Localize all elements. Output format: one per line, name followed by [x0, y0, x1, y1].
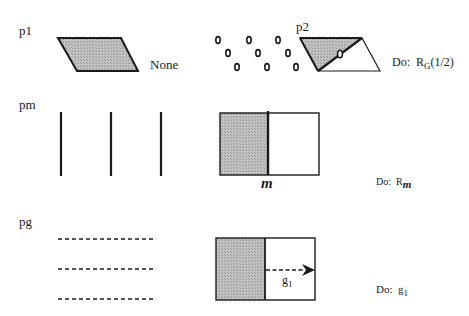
- action-pg: Do: g1: [376, 284, 408, 298]
- p2-rotation-center-icon: [338, 50, 343, 58]
- p2-parallelogram: [300, 38, 380, 71]
- pm-mirror-lines: [61, 112, 161, 176]
- mirror-label-m: m: [261, 176, 273, 191]
- arrowhead-icon: [302, 264, 315, 276]
- pg-glide-lines: [58, 239, 155, 299]
- pg-cell: [216, 238, 315, 300]
- pm-cell: [220, 111, 319, 175]
- caption-none: None: [150, 58, 178, 71]
- action-p2: Do: RG(1/2): [392, 56, 454, 71]
- group-label-pm: pm: [19, 98, 36, 111]
- group-label-pg: pg: [19, 215, 32, 228]
- diagram-canvas: [0, 0, 469, 316]
- group-label-p1: p1: [19, 24, 32, 37]
- p2-rotation-centers: [216, 37, 298, 71]
- group-label-p2: p2: [296, 20, 309, 33]
- glide-label: g1: [282, 274, 293, 289]
- action-pm: Do: Rm: [376, 177, 411, 190]
- p1-shaded-parallelogram: [58, 38, 138, 71]
